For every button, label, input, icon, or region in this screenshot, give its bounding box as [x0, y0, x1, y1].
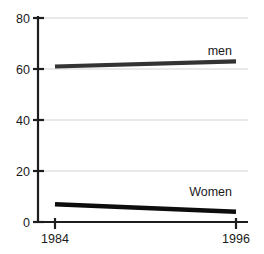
series-line-women — [55, 204, 236, 212]
x-tick-label-1996: 1996 — [222, 232, 250, 246]
y-tick-label-0: 0 — [23, 216, 30, 230]
gridlines-group — [38, 18, 248, 171]
chart-canvas: 80 60 40 20 0 1984 1996 men Women — [0, 0, 264, 254]
series-label-men: men — [208, 44, 232, 58]
x-tickmarks-group — [55, 218, 236, 229]
series-line-men — [55, 61, 236, 66]
series-label-women: Women — [189, 185, 232, 199]
x-tick-label-1984: 1984 — [41, 232, 69, 246]
y-tick-label-20: 20 — [16, 165, 30, 179]
line-chart: 80 60 40 20 0 1984 1996 men Women — [0, 0, 264, 254]
y-tick-label-80: 80 — [16, 12, 30, 26]
y-tick-label-60: 60 — [16, 63, 30, 77]
y-tick-label-40: 40 — [16, 114, 30, 128]
